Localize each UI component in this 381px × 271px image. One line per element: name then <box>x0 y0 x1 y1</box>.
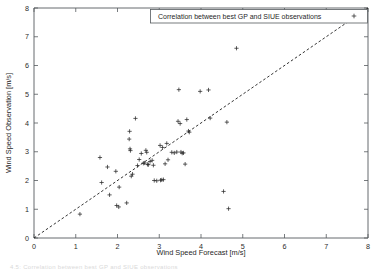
y-tick-label: 8 <box>25 4 29 13</box>
data-point-marker <box>176 119 180 123</box>
data-point-marker <box>125 201 129 205</box>
data-point-marker <box>158 143 162 147</box>
data-point-marker <box>137 157 141 161</box>
x-axis-ticks: 012345678 <box>32 8 370 251</box>
data-point-marker <box>78 212 82 216</box>
data-point-marker <box>105 165 109 169</box>
x-axis-title: Wind Speed Forecast [m/s] <box>156 248 245 257</box>
data-point-marker <box>183 162 187 166</box>
data-point-marker <box>151 163 155 167</box>
data-point-marker <box>221 189 225 193</box>
data-point-marker <box>107 193 111 197</box>
one-to-one-reference-line <box>34 8 368 238</box>
data-point-marker <box>206 88 210 92</box>
data-point-marker <box>172 151 176 155</box>
y-tick-label: 6 <box>25 61 29 70</box>
data-point-marker <box>225 120 229 124</box>
data-point-marker <box>234 46 238 50</box>
legend: Correlation between best GP and SIUE obs… <box>151 10 368 24</box>
data-point-marker <box>178 121 182 125</box>
reference-line-group <box>34 8 368 238</box>
data-point-marker <box>175 150 179 154</box>
y-axis-title: Wind Speed Observation [m/s] <box>4 73 13 173</box>
data-point-marker <box>128 129 132 133</box>
data-point-marker <box>198 89 202 93</box>
x-tick-label: 1 <box>74 242 78 251</box>
figure-container: 012345678 012345678 Correlation between … <box>0 0 381 271</box>
data-point-marker <box>185 117 189 121</box>
data-point-marker <box>160 145 164 149</box>
data-point-marker <box>166 158 170 162</box>
data-point-marker <box>163 162 167 166</box>
legend-label: Correlation between best GP and SIUE obs… <box>158 13 322 20</box>
x-tick-label: 6 <box>283 242 287 251</box>
data-point-marker <box>177 88 181 92</box>
data-point-marker <box>155 179 159 183</box>
data-point-marker <box>127 137 131 141</box>
data-point-marker <box>145 150 149 154</box>
data-point-marker <box>139 151 143 155</box>
x-tick-label: 0 <box>32 242 36 251</box>
data-point-marker <box>135 163 139 167</box>
data-point-marker <box>170 150 174 154</box>
data-point-marker <box>208 116 212 120</box>
data-point-marker <box>144 148 148 152</box>
x-tick-label: 2 <box>116 242 120 251</box>
y-tick-label: 3 <box>25 147 29 156</box>
caption-fragment: 4.5: Correlation between best GP and SIU… <box>10 264 178 270</box>
data-point-marker <box>114 169 118 173</box>
data-point-group <box>78 12 353 216</box>
scatter-plot: 012345678 012345678 Correlation between … <box>0 0 381 271</box>
y-tick-label: 2 <box>25 176 29 185</box>
y-tick-label: 1 <box>25 205 29 214</box>
x-tick-label: 7 <box>324 242 328 251</box>
y-axis-ticks: 012345678 <box>25 4 368 243</box>
y-tick-label: 5 <box>25 90 29 99</box>
x-tick-label: 8 <box>366 242 370 251</box>
data-point-marker <box>98 155 102 159</box>
data-point-marker <box>100 180 104 184</box>
data-point-marker <box>226 207 230 211</box>
y-tick-label: 4 <box>25 119 29 128</box>
y-tick-label: 0 <box>25 234 29 243</box>
y-tick-label: 7 <box>25 32 29 41</box>
data-point-marker <box>117 185 121 189</box>
data-point-marker <box>133 116 137 120</box>
data-point-marker <box>165 141 169 145</box>
